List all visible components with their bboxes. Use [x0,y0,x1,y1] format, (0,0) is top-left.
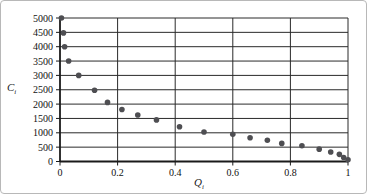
x-tick-label: 0.6 [227,167,240,178]
data-point [62,44,68,50]
scatter-plot: 0500100015002000250030003500400045005000… [1,1,367,194]
data-point [59,15,65,21]
x-tick-label: 0 [58,167,63,178]
data-point [230,131,236,137]
data-point [92,88,98,94]
y-tick-label: 5000 [33,13,53,24]
x-axis-title: Qi [194,177,204,191]
figure-container: 0500100015002000250030003500400045005000… [0,0,367,194]
y-tick-label: 1500 [33,113,53,124]
data-point [154,117,160,123]
y-tick-label: 0 [48,156,53,167]
data-point [177,124,183,130]
data-point [105,100,111,106]
x-tick-label: 0.4 [169,167,182,178]
x-axis-title-subscript: i [202,183,204,191]
y-axis-title: Ci [7,82,16,96]
data-point [201,129,207,135]
data-point [119,107,125,113]
x-tick-label: 0.2 [111,167,124,178]
y-tick-label: 4500 [33,27,53,38]
y-axis-title-subscript: i [14,88,16,96]
data-point [279,141,285,147]
data-point [66,58,72,64]
data-point [76,73,82,79]
data-point [316,146,322,152]
x-tick-label: 0.8 [284,167,297,178]
data-point [328,149,334,155]
x-axis-title-base: Q [194,176,202,188]
y-tick-label: 1000 [33,127,53,138]
data-point [135,112,141,118]
y-tick-label: 3500 [33,56,53,67]
x-tick-label: 1 [346,167,351,178]
data-point [61,30,67,36]
data-point [299,143,305,149]
y-tick-label: 500 [38,142,53,153]
y-tick-label: 2500 [33,84,53,95]
data-point [265,137,271,143]
y-tick-label: 4000 [33,41,53,52]
data-point [247,135,253,141]
y-tick-label: 3000 [33,70,53,81]
y-tick-label: 2000 [33,99,53,110]
data-point [345,157,351,163]
